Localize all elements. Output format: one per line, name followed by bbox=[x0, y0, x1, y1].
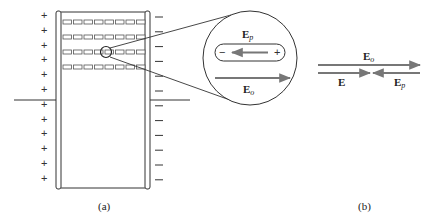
positive-charges: ++++++++++++ bbox=[41, 9, 47, 184]
plus-charge: + bbox=[41, 68, 47, 80]
plus-charge: + bbox=[41, 142, 47, 154]
plus-charge: + bbox=[41, 83, 47, 95]
molecule bbox=[126, 35, 135, 39]
molecule bbox=[116, 35, 125, 39]
molecule bbox=[95, 65, 104, 69]
molecule bbox=[63, 65, 72, 69]
molecule bbox=[126, 20, 135, 24]
molecule bbox=[74, 35, 83, 39]
molecule bbox=[95, 50, 104, 54]
plus-charge: + bbox=[41, 113, 47, 125]
label-eo-b: Eo bbox=[363, 50, 374, 64]
caption-b: (b) bbox=[358, 200, 371, 213]
label-ep-b: Ep bbox=[394, 76, 405, 90]
dielectric-diagram: ++++++++++++ (a) Ep − + Eo Eo E Ep (b) bbox=[0, 0, 436, 216]
plus-charge: + bbox=[41, 39, 47, 51]
plus-charge: + bbox=[41, 172, 47, 184]
caption-a: (a) bbox=[98, 200, 111, 213]
plus-charge: + bbox=[41, 24, 47, 36]
label-e: E bbox=[338, 76, 345, 88]
molecule-minus: − bbox=[219, 46, 225, 58]
molecule bbox=[63, 50, 72, 54]
magnified-view: Ep − + Eo bbox=[203, 11, 297, 105]
molecule bbox=[116, 20, 125, 24]
molecule bbox=[105, 65, 114, 69]
negative-charges bbox=[155, 17, 163, 180]
plus-charge: + bbox=[41, 53, 47, 65]
molecule bbox=[105, 20, 114, 24]
molecule bbox=[63, 35, 72, 39]
molecule bbox=[126, 50, 135, 54]
molecule bbox=[63, 20, 72, 24]
molecule bbox=[84, 35, 93, 39]
plus-charge: + bbox=[41, 157, 47, 169]
molecule bbox=[74, 65, 83, 69]
molecule bbox=[105, 35, 114, 39]
molecule bbox=[105, 50, 114, 54]
molecule bbox=[95, 20, 104, 24]
molecule bbox=[137, 20, 146, 24]
panel-b: Eo E Ep (b) bbox=[318, 50, 420, 213]
molecule bbox=[74, 20, 83, 24]
molecule bbox=[74, 50, 83, 54]
panel-a: ++++++++++++ (a) bbox=[14, 9, 231, 213]
molecule bbox=[137, 50, 146, 54]
plus-charge: + bbox=[41, 98, 47, 110]
plus-charge: + bbox=[41, 9, 47, 21]
plus-charge: + bbox=[41, 127, 47, 139]
left-plate bbox=[56, 11, 61, 189]
molecule bbox=[95, 35, 104, 39]
molecule bbox=[84, 20, 93, 24]
molecule bbox=[84, 50, 93, 54]
molecule bbox=[116, 50, 125, 54]
molecule bbox=[116, 65, 125, 69]
molecule-plus: + bbox=[274, 46, 280, 58]
molecule bbox=[84, 65, 93, 69]
